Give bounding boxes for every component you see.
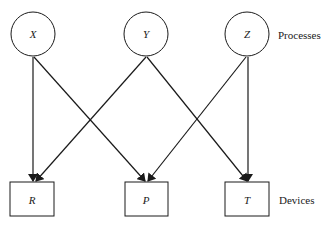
device-label: T — [244, 194, 251, 206]
process-label: X — [29, 28, 38, 40]
edge-x-to-p — [34, 57, 145, 181]
process-node-y: Y — [124, 12, 168, 56]
device-label: P — [142, 194, 150, 206]
process-label: Z — [244, 28, 251, 40]
process-device-diagram: X Y Z Processes R P T Devices — [0, 0, 333, 228]
process-node-z: Z — [225, 12, 269, 56]
edge-y-to-r — [36, 57, 146, 181]
process-node-x: X — [11, 12, 55, 56]
device-node-r: R — [10, 182, 54, 216]
device-node-p: P — [125, 182, 168, 216]
devices-label: Devices — [279, 194, 314, 206]
device-label: R — [28, 194, 36, 206]
processes-label: Processes — [278, 29, 321, 41]
edges — [33, 57, 248, 181]
device-node-t: T — [225, 182, 269, 216]
